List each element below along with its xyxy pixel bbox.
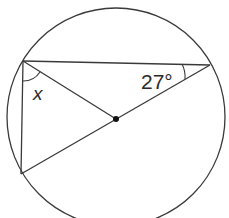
center-point <box>113 116 119 122</box>
label-27: 27° <box>141 70 173 93</box>
label-x: x <box>32 83 44 104</box>
geometry-diagram: x 27° <box>0 0 229 218</box>
angle-arc-x <box>23 72 40 81</box>
angle-arc-27 <box>182 64 185 79</box>
chord-left <box>21 61 23 174</box>
circle <box>7 8 225 218</box>
